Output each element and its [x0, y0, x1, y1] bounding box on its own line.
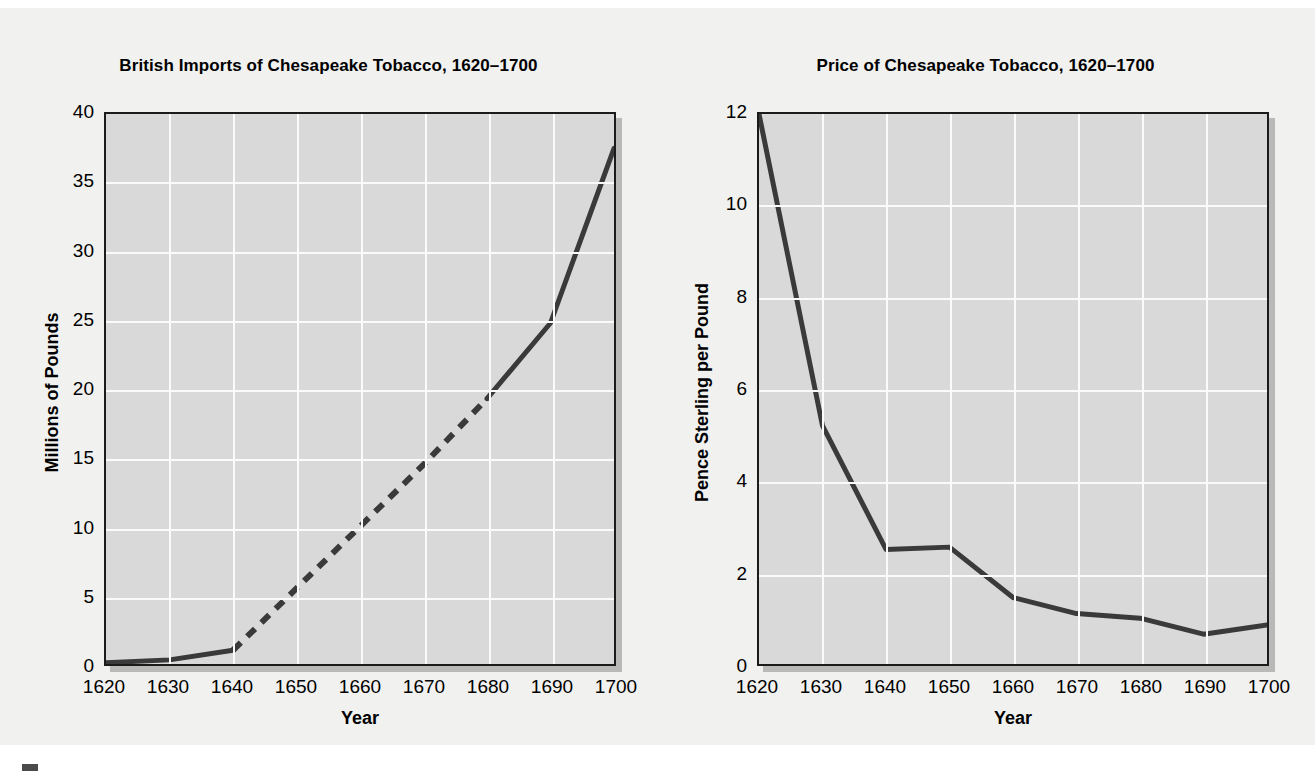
x-axis-tick-label: 1700 [1234, 676, 1304, 698]
gridline-horizontal [759, 390, 1267, 392]
x-axis-tick-label: 1620 [722, 676, 792, 698]
series-british-imports [106, 114, 614, 664]
line-segment-dashed-estimated [233, 399, 487, 651]
figure-page: British Imports of Chesapeake Tobacco, 1… [0, 0, 1315, 773]
x-axis-tick-label: 1660 [325, 676, 395, 698]
gridline-vertical [169, 114, 171, 664]
gridline-vertical [553, 114, 555, 664]
gridline-horizontal [106, 459, 614, 461]
gridline-horizontal [106, 252, 614, 254]
gridline-vertical [233, 114, 235, 664]
x-axis-tick-label: 1700 [581, 676, 651, 698]
chart-british-imports: British Imports of Chesapeake Tobacco, 1… [0, 8, 657, 745]
gridline-vertical [1142, 114, 1144, 664]
x-axis-tick-label: 1620 [69, 676, 139, 698]
x-axis-tick-label: 1650 [914, 676, 984, 698]
x-axis-title-british-imports: Year [104, 708, 616, 729]
gridline-horizontal [759, 205, 1267, 207]
gridline-vertical [297, 114, 299, 664]
gridline-horizontal [759, 482, 1267, 484]
gridline-vertical [1078, 114, 1080, 664]
line-segment-solid-late [487, 148, 614, 398]
page-edge-artifact [22, 764, 38, 771]
gridline-vertical [361, 114, 363, 664]
gridline-horizontal [106, 390, 614, 392]
y-axis-title-british-imports: Millions of Pounds [42, 116, 63, 670]
x-axis-tick-label: 1630 [133, 676, 203, 698]
x-axis-tick-label: 1640 [850, 676, 920, 698]
gridline-vertical [822, 114, 824, 664]
x-axis-tick-label: 1640 [197, 676, 267, 698]
gridline-horizontal [106, 321, 614, 323]
gridline-horizontal [106, 598, 614, 600]
series-price [759, 114, 1267, 664]
x-axis-tick-label: 1630 [786, 676, 856, 698]
x-axis-tick-label: 1650 [261, 676, 331, 698]
x-axis-tick-label: 1690 [1170, 676, 1240, 698]
gridline-vertical [425, 114, 427, 664]
gridline-vertical [489, 114, 491, 664]
gridline-vertical [886, 114, 888, 664]
gridline-horizontal [759, 575, 1267, 577]
gridline-vertical [1206, 114, 1208, 664]
gridline-horizontal [106, 182, 614, 184]
x-axis-tick-label: 1670 [1042, 676, 1112, 698]
plot-area-british-imports [104, 112, 616, 666]
plot-wrap-price: 024681012 162016301640165016601670168016… [657, 8, 1314, 745]
line-segment-solid-price [759, 114, 1267, 634]
plot-area-price [757, 112, 1269, 666]
gridline-vertical [950, 114, 952, 664]
y-axis-title-price: Pence Sterling per Pound [692, 116, 713, 670]
x-axis-tick-label: 1690 [517, 676, 587, 698]
plot-wrap-british-imports: 0510152025303540 16201630164016501660167… [0, 8, 657, 745]
x-axis-title-price: Year [757, 708, 1269, 729]
gridline-vertical [1014, 114, 1016, 664]
figure-area: British Imports of Chesapeake Tobacco, 1… [0, 8, 1315, 745]
x-axis-tick-label: 1680 [1106, 676, 1176, 698]
gridline-horizontal [759, 298, 1267, 300]
x-axis-tick-label: 1670 [389, 676, 459, 698]
x-axis-tick-label: 1660 [978, 676, 1048, 698]
chart-price: Price of Chesapeake Tobacco, 1620–1700 0… [657, 8, 1314, 745]
x-axis-tick-label: 1680 [453, 676, 523, 698]
gridline-horizontal [106, 529, 614, 531]
